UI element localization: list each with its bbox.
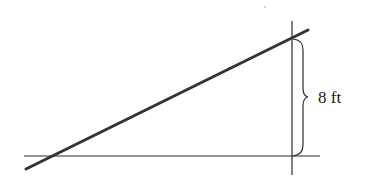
scan-speck (264, 6, 266, 8)
height-brace (293, 39, 308, 156)
triangle-diagram (0, 0, 371, 184)
sloped-line (26, 30, 308, 169)
height-label: 8 ft (318, 89, 341, 106)
